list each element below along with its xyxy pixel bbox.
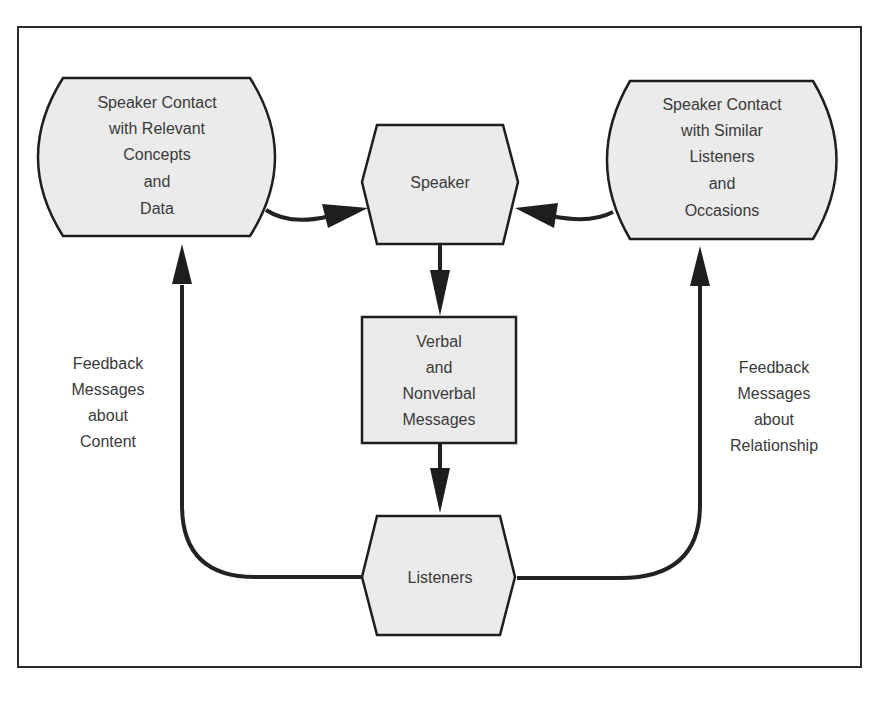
feedback-content-line-2: Messages <box>72 381 145 398</box>
feedback-content-line-3: about <box>88 407 129 424</box>
node-messages-line-3: Nonverbal <box>403 385 476 402</box>
node-listeners-label: Listeners <box>408 569 473 586</box>
node-listeners-occasions: Speaker Contact with Similar Listeners a… <box>607 81 837 239</box>
node-occasions-line-4: and <box>709 175 736 192</box>
node-concepts-line-4: and <box>144 173 171 190</box>
node-occasions-line-2: with Similar <box>680 122 763 139</box>
node-messages-line-1: Verbal <box>416 333 461 350</box>
node-concepts-line-3: Concepts <box>123 146 191 163</box>
feedback-relationship-line-3: about <box>754 411 795 428</box>
node-concepts-line-1: Speaker Contact <box>97 94 217 111</box>
node-concepts-line-2: with Relevant <box>108 120 206 137</box>
arrowhead-up-icon <box>690 246 710 286</box>
arrowhead-left-icon <box>515 203 558 228</box>
label-feedback-content: Feedback Messages about Content <box>72 355 145 450</box>
feedback-relationship-line-4: Relationship <box>730 437 818 454</box>
label-feedback-relationship: Feedback Messages about Relationship <box>730 359 818 454</box>
arrowhead-right-icon <box>322 204 368 228</box>
feedback-relationship-line-2: Messages <box>738 385 811 402</box>
edge-feedback-content <box>182 285 361 577</box>
edge-concepts-to-speaker <box>266 210 330 220</box>
node-occasions-line-1: Speaker Contact <box>662 96 782 113</box>
speaker-listener-diagram: Speaker Contact with Relevant Concepts a… <box>0 0 878 713</box>
node-listeners: Listeners <box>362 516 515 635</box>
node-speaker-label: Speaker <box>410 174 470 191</box>
node-messages: Verbal and Nonverbal Messages <box>362 317 516 443</box>
arrowhead-up-icon <box>172 244 192 284</box>
feedback-content-line-1: Feedback <box>73 355 144 372</box>
feedback-content-line-4: Content <box>80 433 137 450</box>
node-concepts: Speaker Contact with Relevant Concepts a… <box>38 78 275 236</box>
node-messages-line-4: Messages <box>403 411 476 428</box>
node-speaker: Speaker <box>362 125 518 244</box>
edge-occasions-to-speaker <box>552 212 613 219</box>
node-occasions-line-3: Listeners <box>690 148 755 165</box>
edge-feedback-relationship <box>517 285 700 578</box>
feedback-relationship-line-1: Feedback <box>739 359 810 376</box>
node-occasions-line-5: Occasions <box>685 202 760 219</box>
node-concepts-line-5: Data <box>140 200 174 217</box>
node-messages-line-2: and <box>426 359 453 376</box>
arrowhead-down-icon <box>430 468 450 513</box>
arrowhead-down-icon <box>430 270 450 316</box>
